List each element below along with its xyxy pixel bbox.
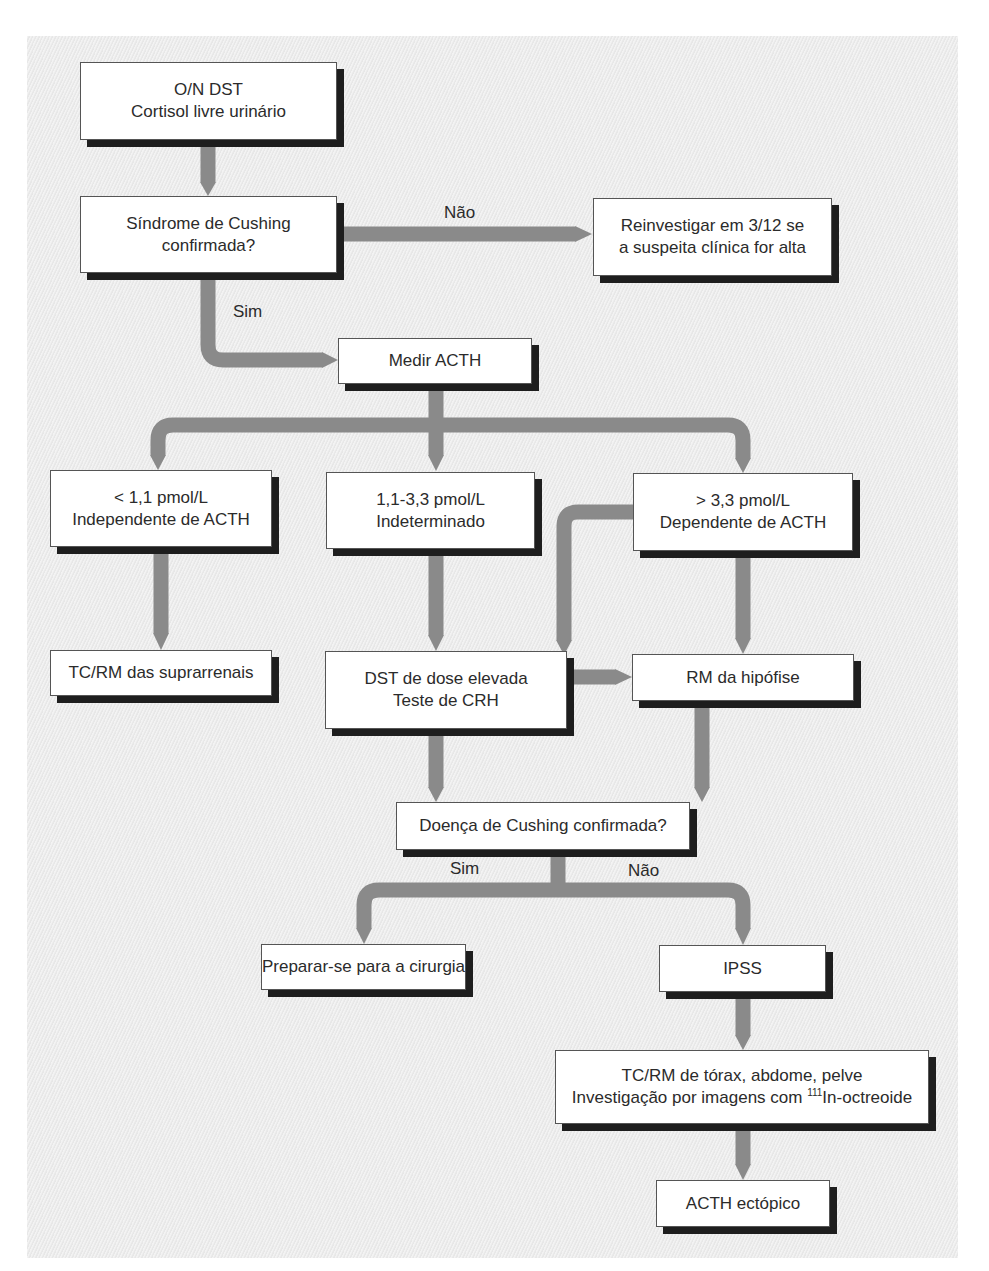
- node-ectopic-acth: ACTH ectópico: [656, 1180, 830, 1227]
- node-high-dose-dst: DST de dose elevada Teste de CRH: [325, 651, 567, 729]
- node-line: Cortisol livre urinário: [131, 101, 286, 123]
- edge-label-yes-2: Sim: [450, 859, 479, 879]
- node-ipss: IPSS: [659, 945, 826, 992]
- edge-label-no-2: Não: [628, 861, 659, 881]
- node-line: RM da hipófise: [686, 667, 799, 689]
- node-line: O/N DST: [174, 79, 243, 101]
- node-line: TC/RM das suprarrenais: [68, 662, 253, 684]
- node-line: Preparar-se para a cirurgia: [262, 956, 465, 978]
- node-line: DST de dose elevada: [364, 668, 527, 690]
- node-line: ACTH ectópico: [686, 1193, 800, 1215]
- node-line: Investigação por imagens com 111In-octre…: [572, 1087, 912, 1109]
- node-adrenal-imaging: TC/RM das suprarrenais: [50, 650, 272, 696]
- node-line: Dependente de ACTH: [660, 512, 826, 534]
- node-initial-tests: O/N DST Cortisol livre urinário: [80, 62, 337, 140]
- isotope-superscript: 111: [807, 1087, 822, 1098]
- node-reinvestigate: Reinvestigar em 3/12 se a suspeita clíni…: [593, 198, 832, 276]
- node-cushing-disease-confirmed: Doença de Cushing confirmada?: [396, 802, 690, 850]
- node-cushing-syndrome-confirmed: Síndrome de Cushing confirmada?: [80, 196, 337, 273]
- node-line: Síndrome de Cushing: [126, 213, 290, 235]
- node-line: Reinvestigar em 3/12 se: [621, 215, 804, 237]
- arrow-n2-n4: [208, 273, 322, 360]
- node-indeterminate: 1,1-3,3 pmol/L Indeterminado: [326, 472, 535, 549]
- node-line: confirmada?: [162, 235, 256, 257]
- node-line: Medir ACTH: [389, 350, 482, 372]
- node-line: Indeterminado: [376, 511, 485, 533]
- node-line: IPSS: [723, 958, 762, 980]
- node-line: Teste de CRH: [393, 690, 499, 712]
- node-line: < 1,1 pmol/L: [114, 487, 208, 509]
- arrow-n11-branch: [364, 890, 743, 928]
- node-line: 1,1-3,3 pmol/L: [376, 489, 485, 511]
- edge-label-no: Não: [444, 203, 475, 223]
- arrow-n4-branch: [158, 425, 743, 458]
- node-line: Independente de ACTH: [72, 509, 250, 531]
- node-pituitary-mri: RM da hipófise: [632, 654, 854, 701]
- arrow-n7-n9: [564, 512, 633, 640]
- node-acth-dependent: > 3,3 pmol/L Dependente de ACTH: [633, 473, 853, 551]
- node-line-text: Investigação por imagens com: [572, 1088, 807, 1107]
- edge-label-yes: Sim: [233, 302, 262, 322]
- node-line: a suspeita clínica for alta: [619, 237, 806, 259]
- node-measure-acth: Medir ACTH: [338, 338, 532, 384]
- node-prepare-surgery: Preparar-se para a cirurgia: [261, 944, 466, 990]
- node-acth-independent: < 1,1 pmol/L Independente de ACTH: [50, 470, 272, 547]
- node-line: TC/RM de tórax, abdome, pelve: [622, 1065, 863, 1087]
- node-line-text: In-octreoide: [822, 1088, 912, 1107]
- node-body-imaging: TC/RM de tórax, abdome, pelve Investigaç…: [555, 1050, 929, 1124]
- node-line: Doença de Cushing confirmada?: [419, 815, 667, 837]
- node-line: > 3,3 pmol/L: [696, 490, 790, 512]
